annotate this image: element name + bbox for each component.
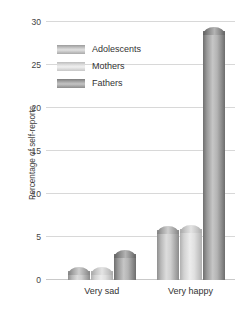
bar-fathers-very-happy [203, 27, 225, 280]
bar-cap [180, 225, 202, 233]
mothers-swatch [57, 62, 85, 71]
bar-chart: Percentage of self-reports 302520151050 … [0, 0, 241, 326]
bar-body [157, 230, 179, 280]
bar-cap [157, 226, 179, 234]
bar-adolescents-very-happy [157, 226, 179, 280]
legend-item-adolescents: Adolescents [57, 42, 141, 56]
adolescents-swatch [57, 45, 85, 54]
bar-adolescents-very-sad [68, 267, 90, 280]
gridline-30 [46, 21, 235, 22]
legend-label: Adolescents [92, 44, 141, 54]
y-tick-label: 0 [17, 275, 41, 285]
legend-item-fathers: Fathers [57, 76, 141, 90]
legend-item-mothers: Mothers [57, 59, 141, 73]
chart-legend: AdolescentsMothersFathers [57, 42, 141, 93]
x-tick-label: Very happy [168, 286, 213, 296]
x-tick-label: Very sad [84, 286, 119, 296]
y-tick-label: 30 [17, 17, 41, 27]
y-axis-title: Percentage of self-reports [27, 58, 37, 248]
legend-label: Fathers [92, 78, 123, 88]
bar-mothers-very-happy [180, 225, 202, 280]
fathers-swatch [57, 79, 85, 88]
bar-body [180, 229, 202, 280]
bar-cap [91, 267, 113, 275]
bar-cap [68, 267, 90, 275]
bar-cap [114, 250, 136, 258]
bar-body [114, 254, 136, 280]
bar-mothers-very-sad [91, 267, 113, 280]
bar-cap [203, 27, 225, 35]
legend-label: Mothers [92, 61, 125, 71]
x-axis-tick-labels: Very sadVery happy [46, 286, 235, 302]
bar-body [203, 31, 225, 280]
bar-fathers-very-sad [114, 250, 136, 280]
